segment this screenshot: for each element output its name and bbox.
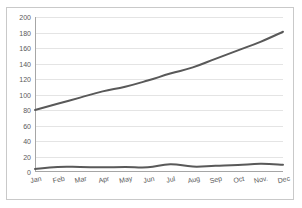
y-axis-tick-label: 80 <box>23 107 31 114</box>
y-axis-tick-label: 120 <box>19 76 31 83</box>
y-axis-tick-label: 40 <box>23 138 31 145</box>
x-axis-tick-label: Oct <box>233 175 245 184</box>
y-axis-tick-label: 180 <box>19 29 31 36</box>
chart-frame: 020406080100120140160180200 JanFebMarApr… <box>6 7 294 200</box>
x-axis-tick-label: Sep <box>209 175 223 184</box>
x-axis-tick-label: Nov. <box>254 175 269 185</box>
y-axis-tick-label: 200 <box>19 14 31 21</box>
chart-plot-wrapper: 020406080100120140160180200 JanFebMarApr… <box>7 8 293 199</box>
x-axis-tick-label: Jul <box>166 175 176 184</box>
x-axis-tick-label: May <box>119 175 133 185</box>
x-axis-tick-label: Mar <box>74 175 87 184</box>
y-axis-tick-label: 20 <box>23 153 31 160</box>
series-lines-group <box>35 17 283 172</box>
y-axis-tick-label: 100 <box>19 91 31 98</box>
x-axis-tick-label: Aug <box>187 175 201 184</box>
x-axis-tick-label: Feb <box>52 175 65 184</box>
x-axis-tick-label: Jun <box>142 175 155 184</box>
y-axis-tick-label: 140 <box>19 60 31 67</box>
series-line-lower-series <box>35 164 283 169</box>
series-line-upper-series <box>35 32 283 110</box>
y-axis-tick-label: 160 <box>19 45 31 52</box>
y-axis-tick-label: 60 <box>23 122 31 129</box>
x-axis-tick-label: Dec <box>277 175 291 184</box>
x-axis-tick-label: Apr <box>97 175 109 184</box>
y-axis-tick-label: 0 <box>27 169 31 176</box>
x-axis-tick-label: Jan <box>29 175 42 184</box>
plot-area: 020406080100120140160180200 JanFebMarApr… <box>35 17 283 172</box>
